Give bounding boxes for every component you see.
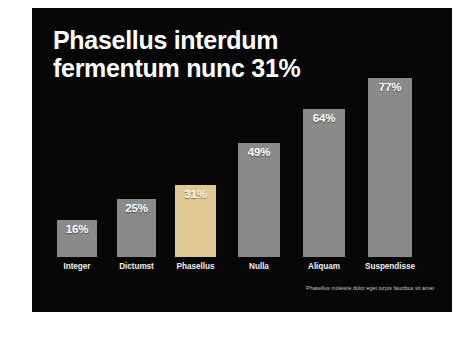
bar-group-suspendisse[interactable]: 77%Suspendisse xyxy=(368,78,412,257)
bar-value-label: 49% xyxy=(238,146,280,158)
bar-dictumst[interactable]: 25% xyxy=(117,199,156,257)
bar-aliquam[interactable]: 64% xyxy=(303,109,345,257)
bar-category-label: Phasellus xyxy=(161,262,230,271)
bar-category-label: Aliquam xyxy=(289,262,359,271)
bar-group-phasellus[interactable]: 31%Phasellus xyxy=(175,185,216,257)
bar-category-label: Suspendisse xyxy=(354,262,426,271)
slide-panel: Phasellus interdum fermentum nunc 31% 16… xyxy=(32,8,452,312)
bar-value-label: 64% xyxy=(303,112,345,124)
bar-chart: 16%Integer25%Dictumst31%Phasellus49%Null… xyxy=(32,8,452,312)
bar-phasellus[interactable]: 31% xyxy=(175,185,216,257)
bar-group-aliquam[interactable]: 64%Aliquam xyxy=(303,109,345,257)
bar-value-label: 16% xyxy=(57,223,97,235)
bar-group-dictumst[interactable]: 25%Dictumst xyxy=(117,199,156,257)
bar-category-label: Nulla xyxy=(224,262,294,271)
bar-value-label: 25% xyxy=(117,202,156,214)
bar-category-label: Integer xyxy=(43,262,111,271)
bar-integer[interactable]: 16% xyxy=(57,220,97,257)
bar-group-integer[interactable]: 16%Integer xyxy=(57,220,97,257)
bar-value-label: 77% xyxy=(368,81,412,93)
bar-suspendisse[interactable]: 77% xyxy=(368,78,412,257)
slide-canvas: Phasellus interdum fermentum nunc 31% 16… xyxy=(0,0,476,339)
bar-nulla[interactable]: 49% xyxy=(238,143,280,257)
bar-group-nulla[interactable]: 49%Nulla xyxy=(238,143,280,257)
bar-category-label: Dictumst xyxy=(103,262,170,271)
chart-footnote: Phasellus molestie dolor eget turpis fau… xyxy=(306,285,434,291)
bar-value-label: 31% xyxy=(175,188,216,200)
